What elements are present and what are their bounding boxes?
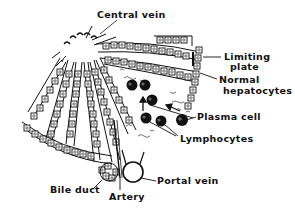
label-normal-hepatocytes-line1: Normal bbox=[219, 75, 260, 85]
diagram-drawing bbox=[0, 0, 295, 214]
label-artery: Artery bbox=[109, 192, 145, 202]
hepatocyte-cells bbox=[24, 67, 132, 181]
label-normal-hepatocytes-line2: hepatocytes bbox=[223, 86, 292, 96]
inflammatory-cells bbox=[127, 80, 189, 127]
label-portal-vein: Portal vein bbox=[157, 176, 219, 186]
label-bile-duct: Bile duct bbox=[50, 185, 100, 195]
label-plasma-cell: Plasma cell bbox=[197, 112, 261, 122]
label-central-vein: Central vein bbox=[97, 10, 166, 20]
liver-lobule-diagram: Central vein Limiting plate Normal hepat… bbox=[0, 0, 295, 214]
label-limiting-plate-line2: plate bbox=[230, 62, 259, 72]
portal-vein bbox=[122, 150, 144, 182]
label-lymphocytes: Lymphocytes bbox=[180, 134, 253, 144]
migration-arrows bbox=[140, 97, 180, 111]
